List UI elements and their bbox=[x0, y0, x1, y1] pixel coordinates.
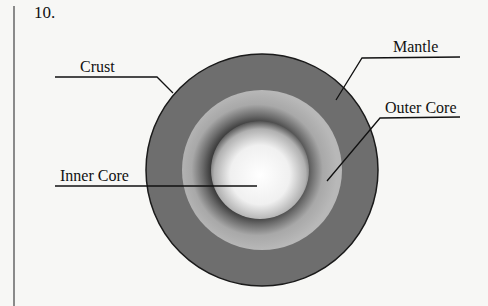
label-outer-core: Outer Core bbox=[385, 99, 457, 117]
label-inner-core: Inner Core bbox=[60, 167, 129, 185]
label-crust: Crust bbox=[80, 58, 115, 76]
inner-core-layer bbox=[211, 121, 309, 219]
mantle-leader-line bbox=[336, 57, 460, 100]
crust-leader-line bbox=[55, 77, 173, 93]
label-mantle: Mantle bbox=[393, 38, 438, 56]
